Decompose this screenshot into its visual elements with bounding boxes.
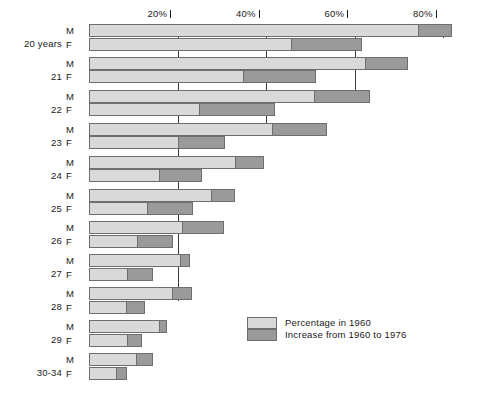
bar-row: F [0,136,478,149]
sex-label: F [66,302,80,313]
bar-segment-increase-1960-1976 [136,353,153,366]
bar-segment-increase-1960-1976 [127,334,142,347]
bar-segment-increase-1960-1976 [418,24,452,37]
stacked-bar [89,189,235,202]
bar-row: F [0,70,478,83]
bar-segment-increase-1960-1976 [178,136,225,149]
legend-swatch-light [247,317,277,329]
bar-group: 20 yearsMF [0,24,478,52]
bar-segment-percentage-1960 [89,287,173,300]
bar-segment-percentage-1960 [89,320,160,333]
legend-item: Percentage in 1960 [247,317,447,329]
sex-label: M [66,190,80,201]
bar-segment-percentage-1960 [89,334,128,347]
bar-row: F [0,367,478,380]
x-axis-tick-label: 60% [325,8,345,19]
stacked-bar [89,287,192,300]
bar-segment-percentage-1960 [89,103,200,116]
bar-row: F [0,103,478,116]
bar-group: 28MF [0,287,478,315]
bar-group: 30-34MF [0,353,478,381]
sex-label: M [66,58,80,69]
bar-segment-increase-1960-1976 [137,235,173,248]
stacked-bar [89,90,370,103]
bar-segment-percentage-1960 [89,189,212,202]
x-axis-tick-label: 80% [413,8,433,19]
bar-segment-percentage-1960 [89,221,183,234]
tick-mark-icon [170,10,171,18]
bar-group: 25MF [0,189,478,217]
bar-row: M [0,123,478,136]
tick-mark-icon [436,10,437,18]
tick-mark-icon [347,10,348,18]
sex-label: F [66,368,80,379]
bar-row: M [0,90,478,103]
bar-segment-percentage-1960 [89,123,273,136]
sex-label: M [66,124,80,135]
sex-label: F [66,335,80,346]
sex-label: F [66,71,80,82]
sex-label: F [66,269,80,280]
bar-segment-percentage-1960 [89,156,236,169]
bar-group: 27MF [0,254,478,282]
bar-group: 22MF [0,90,478,118]
stacked-bar [89,169,202,182]
bar-segment-increase-1960-1976 [365,57,408,70]
bar-row: F [0,268,478,281]
stacked-bar [89,70,316,83]
stacked-bar [89,103,275,116]
bar-row: M [0,156,478,169]
stacked-bar [89,202,193,215]
bar-segment-percentage-1960 [89,268,128,281]
stacked-bar [89,57,408,70]
sex-label: M [66,222,80,233]
bar-segment-percentage-1960 [89,90,315,103]
stacked-bar [89,24,452,37]
bar-group: 24MF [0,156,478,184]
sex-label: M [66,157,80,168]
stacked-bar [89,221,224,234]
x-axis-tick-20: 20% [148,8,172,19]
bar-segment-percentage-1960 [89,254,181,267]
sex-label: M [66,91,80,102]
bar-row: F [0,202,478,215]
bar-segment-percentage-1960 [89,38,292,51]
sex-label: M [66,321,80,332]
bar-row: M [0,254,478,267]
stacked-bar [89,301,145,314]
bar-segment-percentage-1960 [89,202,148,215]
sex-label: M [66,25,80,36]
legend-item: Increase from 1960 to 1976 [247,329,447,341]
bar-row: M [0,57,478,70]
sex-label: M [66,255,80,266]
bar-segment-increase-1960-1976 [291,38,362,51]
stacked-bar [89,156,264,169]
stacked-bar [89,367,127,380]
sex-label: M [66,288,80,299]
bar-group: 23MF [0,123,478,151]
bar-segment-increase-1960-1976 [182,221,224,234]
stacked-bar [89,235,173,248]
bar-segment-percentage-1960 [89,24,419,37]
bar-segment-increase-1960-1976 [211,189,235,202]
bar-row: F [0,38,478,51]
bar-segment-increase-1960-1976 [147,202,193,215]
bar-segment-increase-1960-1976 [116,367,127,380]
bar-row: F [0,235,478,248]
bar-segment-percentage-1960 [89,301,127,314]
stacked-bar [89,353,153,366]
sex-label: F [66,170,80,181]
sex-label: M [66,354,80,365]
bar-segment-percentage-1960 [89,169,160,182]
stacked-bar [89,136,225,149]
bar-segment-percentage-1960 [89,353,137,366]
bar-row: F [0,301,478,314]
bar-group: 26MF [0,221,478,249]
bar-row: M [0,353,478,366]
stacked-bar [89,38,362,51]
sex-label: F [66,236,80,247]
chart-container: 20%40%60%80% 20 yearsMF21MF22MF23MF24MF2… [0,0,478,395]
bar-group: 21MF [0,57,478,85]
bar-segment-increase-1960-1976 [159,320,167,333]
sex-label: F [66,203,80,214]
